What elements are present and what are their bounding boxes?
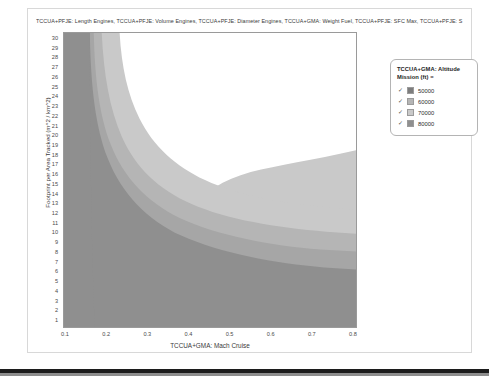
plot-frame (63, 32, 357, 328)
y-axis-tick: 3 (55, 298, 58, 304)
y-axis-tick: 20 (52, 132, 58, 138)
y-axis-tick: 5 (55, 278, 58, 284)
x-axis-tick: 0.2 (102, 330, 110, 338)
y-axis-tick: 15 (52, 181, 58, 187)
y-axis-tick: 13 (52, 200, 58, 206)
y-axis-tick: 11 (52, 220, 58, 226)
x-axis-tick: 0.6 (267, 330, 275, 338)
document-page-frame: TCCUA+PFJE: Length Engines, TCCUA+PFJE: … (27, 8, 472, 353)
y-axis-tick: 17 (52, 161, 58, 167)
legend-checkbox-icon[interactable]: ✓ (397, 120, 404, 127)
y-axis-tick: 30 (52, 35, 58, 41)
y-axis-tick: 23 (52, 103, 58, 109)
legend-color-swatch (407, 87, 414, 94)
x-axis-tick: 0.7 (308, 330, 316, 338)
legend-checkbox-icon[interactable]: ✓ (397, 98, 404, 105)
x-axis-tick: 0.1 (61, 330, 69, 338)
legend-item-label: 60000 (418, 98, 434, 106)
y-axis-tick: 19 (52, 142, 58, 148)
legend-title: TCCUA+GMA: Altitude Mission (ft) = (397, 65, 471, 81)
x-axis-tick-labels: 0.10.20.30.40.50.60.70.8 (63, 330, 357, 340)
legend-item[interactable]: ✓60000 (397, 96, 471, 107)
x-axis-tick: 0.5 (226, 330, 234, 338)
y-axis-tick: 28 (52, 54, 58, 60)
legend-item[interactable]: ✓80000 (397, 118, 471, 129)
x-axis-title: TCCUA+GMA: Mach Cruise (63, 342, 357, 349)
legend-item-label: 70000 (418, 109, 434, 117)
y-axis-title: Footprint per Area Tracked (m^2 / km^2) (44, 68, 51, 238)
y-axis-tick: 18 (52, 152, 58, 158)
x-axis-tick: 0.8 (349, 330, 357, 338)
x-axis-tick: 0.3 (143, 330, 151, 338)
page-edge-shadow (0, 373, 489, 376)
legend-color-swatch (407, 120, 414, 127)
legend-color-swatch (407, 98, 414, 105)
y-axis-tick: 21 (52, 123, 58, 129)
chart-title: TCCUA+PFJE: Length Engines, TCCUA+PFJE: … (36, 16, 470, 27)
legend-item[interactable]: ✓50000 (397, 85, 471, 96)
legend-color-swatch (407, 109, 414, 116)
y-axis-tick: 16 (52, 171, 58, 177)
legend-panel[interactable]: TCCUA+GMA: Altitude Mission (ft) = ✓5000… (390, 59, 478, 136)
legend-item-label: 80000 (418, 120, 434, 128)
legend-checkbox-icon[interactable]: ✓ (397, 109, 404, 116)
y-axis-tick: 22 (52, 113, 58, 119)
contour-bands (64, 33, 356, 327)
y-axis-tick: 29 (52, 45, 58, 51)
y-axis-tick: 7 (55, 259, 58, 265)
y-axis-tick: 8 (55, 249, 58, 255)
y-axis-tick: 4 (55, 288, 58, 294)
legend-rows: ✓50000✓60000✓70000✓80000 (397, 85, 471, 129)
legend-item-label: 50000 (418, 87, 434, 95)
y-axis-tick: 24 (52, 93, 58, 99)
contour-plot-canvas (64, 33, 356, 327)
y-axis-tick: 2 (55, 307, 58, 313)
y-axis-tick: 12 (52, 210, 58, 216)
y-axis-tick: 27 (52, 64, 58, 70)
y-axis-tick: 6 (55, 268, 58, 274)
legend-checkbox-icon[interactable]: ✓ (397, 87, 404, 94)
y-axis-tick: 1 (55, 317, 58, 323)
y-axis-tick: 14 (52, 191, 58, 197)
legend-item[interactable]: ✓70000 (397, 107, 471, 118)
y-axis-tick: 10 (52, 229, 58, 235)
y-axis-tick: 26 (52, 74, 58, 80)
x-axis-tick: 0.4 (185, 330, 193, 338)
y-axis-tick: 9 (55, 239, 58, 245)
y-axis-tick: 25 (52, 84, 58, 90)
